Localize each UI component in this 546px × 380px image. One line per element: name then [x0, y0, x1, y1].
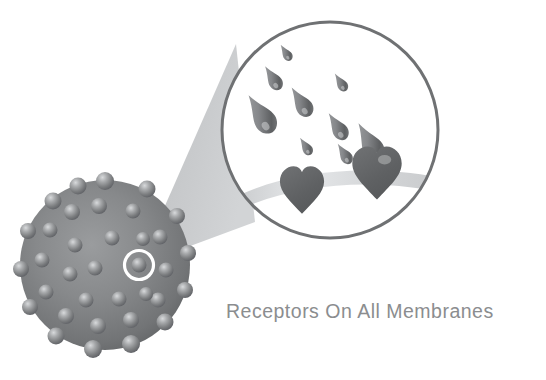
page-title: Receptors On All Membranes: [226, 299, 526, 323]
receptor-diagram-canvas: [0, 0, 546, 380]
illustration-figure: Receptors On All Membranes: [0, 0, 546, 380]
